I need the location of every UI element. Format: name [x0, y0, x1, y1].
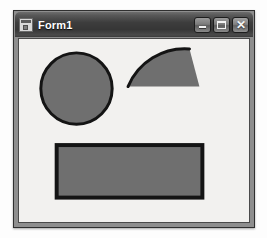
circle-shape — [41, 53, 112, 124]
close-icon: ✕ — [233, 18, 248, 32]
drawing-canvas — [19, 39, 249, 222]
close-button[interactable]: ✕ — [232, 17, 249, 33]
window-title: Form1 — [38, 19, 194, 31]
minimize-button[interactable] — [194, 17, 211, 33]
form1-window: Form1 ✕ — [13, 10, 255, 228]
form-window-icon — [19, 18, 33, 32]
screenshot-root: Form1 ✕ — [0, 0, 267, 238]
window-controls: ✕ — [194, 17, 251, 33]
form-client-area[interactable] — [18, 38, 250, 223]
rectangle-shape — [57, 145, 203, 198]
minimize-icon — [195, 18, 210, 32]
maximize-icon — [214, 18, 229, 32]
window-titlebar[interactable]: Form1 ✕ — [15, 12, 253, 37]
maximize-button[interactable] — [213, 17, 230, 33]
